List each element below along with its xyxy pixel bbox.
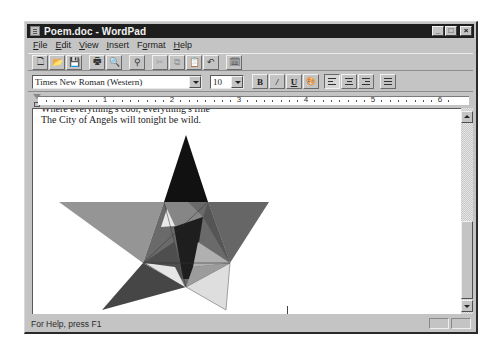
italic-button[interactable]: / xyxy=(269,74,285,89)
ruler-tick xyxy=(189,100,190,102)
menu-format-label: rmat xyxy=(147,40,165,50)
status-text: For Help, press F1 xyxy=(28,319,429,329)
vertical-scrollbar[interactable] xyxy=(461,108,473,314)
bold-button[interactable]: B xyxy=(252,74,268,89)
ruler-tick xyxy=(46,100,47,102)
scroll-thumb[interactable] xyxy=(461,221,473,299)
save-disk-icon: 💾 xyxy=(69,57,80,67)
ruler-tick xyxy=(381,100,382,102)
ruler-number-2: 2 xyxy=(170,95,174,104)
format-toolbar: Times New Roman (Western) 10 B / U 🎨 xyxy=(28,72,473,92)
ruler-tick xyxy=(88,100,89,102)
align-center-icon xyxy=(345,78,353,85)
ruler-tick xyxy=(214,100,215,102)
copy-icon: ⧉ xyxy=(174,57,180,68)
paste-icon: 📋 xyxy=(189,57,200,67)
align-right-icon xyxy=(362,78,370,85)
ruler-tick xyxy=(79,100,80,102)
ruler-tick xyxy=(281,100,282,102)
maximize-button[interactable]: □ xyxy=(445,26,457,36)
ruler-tick xyxy=(256,100,257,102)
print-button[interactable]: 🖶 xyxy=(89,55,105,70)
status-pane-caps xyxy=(429,318,449,329)
paste-button[interactable]: 📋 xyxy=(186,55,202,70)
ruler-tick xyxy=(398,100,399,102)
ruler-tick xyxy=(406,100,407,102)
menu-insert-label: nsert xyxy=(109,40,129,50)
ruler-tick xyxy=(331,100,332,102)
document-area[interactable]: Where everything's cool, everything's fi… xyxy=(32,108,461,314)
scroll-up-arrow-icon[interactable] xyxy=(461,111,473,123)
ruler-tick xyxy=(415,100,416,102)
ruler-tick xyxy=(197,100,198,102)
ruler-tick xyxy=(289,100,290,102)
font-name-value: Times New Roman (Western) xyxy=(35,77,142,87)
menu-edit-label: dit xyxy=(62,40,72,50)
undo-button[interactable]: ↶ xyxy=(203,55,219,70)
menu-help[interactable]: Help xyxy=(169,39,196,53)
status-bar: For Help, press F1 xyxy=(28,316,473,331)
ruler-tick xyxy=(163,100,164,102)
ruler-number-6: 6 xyxy=(438,95,442,104)
ruler-tick xyxy=(63,100,64,102)
open-button[interactable]: 📂 xyxy=(49,55,65,70)
ruler-tick xyxy=(272,100,273,102)
ruler-tick xyxy=(113,100,114,102)
find-button[interactable]: ⚲ xyxy=(129,55,145,70)
undo-icon: ↶ xyxy=(207,57,215,67)
ruler-tick xyxy=(130,100,131,102)
menu-file[interactable]: File xyxy=(29,39,52,53)
close-button[interactable]: × xyxy=(460,26,472,36)
bullet-list-icon xyxy=(384,78,392,85)
menu-edit[interactable]: Edit xyxy=(52,39,76,53)
scroll-down-arrow-icon[interactable] xyxy=(461,300,473,312)
ruler-tick xyxy=(348,100,349,102)
new-document-icon: 🗋 xyxy=(37,54,44,70)
color-button[interactable]: 🎨 xyxy=(303,74,319,89)
menu-format[interactable]: Format xyxy=(133,39,170,53)
minimize-button[interactable]: _ xyxy=(432,26,444,36)
star-drawing[interactable] xyxy=(33,109,461,314)
bold-icon: B xyxy=(257,77,263,87)
align-right-button[interactable] xyxy=(358,74,374,89)
menu-file-label: ile xyxy=(39,40,48,50)
ruler-tick xyxy=(230,100,231,102)
bullets-button[interactable] xyxy=(380,74,396,89)
ruler-tick xyxy=(364,100,365,102)
title-bar[interactable]: Poem.doc - WordPad _ □ × xyxy=(27,24,474,38)
wordpad-window: Poem.doc - WordPad _ □ × File Edit View … xyxy=(24,21,478,334)
wordpad-app-icon[interactable] xyxy=(30,26,40,36)
ruler-tick xyxy=(96,100,97,102)
menu-help-label: elp xyxy=(180,40,192,50)
font-dropdown-arrow-icon[interactable] xyxy=(189,76,201,88)
font-size-dropdown[interactable]: 10 xyxy=(210,75,244,89)
underline-button[interactable]: U xyxy=(286,74,302,89)
ruler-tick xyxy=(339,100,340,102)
ruler-tick xyxy=(54,100,55,102)
text-cursor xyxy=(287,306,288,314)
copy-button[interactable]: ⧉ xyxy=(169,55,185,70)
ruler[interactable]: 1 2 3 4 xyxy=(28,93,473,107)
star-top-point xyxy=(164,135,208,202)
ruler-tick xyxy=(390,100,391,102)
font-name-dropdown[interactable]: Times New Roman (Western) xyxy=(32,75,202,89)
ruler-number-3: 3 xyxy=(237,95,241,104)
menu-view-label: iew xyxy=(85,40,99,50)
ruler-tick xyxy=(264,100,265,102)
insert-datetime-button[interactable]: 🗓 xyxy=(226,55,242,70)
standard-toolbar: 🗋 📂 💾 🖶 🔍 ⚲ ✂ ⧉ 📋 ↶ 🗓 xyxy=(28,53,473,71)
size-dropdown-arrow-icon[interactable] xyxy=(231,76,243,88)
scissors-icon: ✂ xyxy=(156,57,164,67)
new-button[interactable]: 🗋 xyxy=(32,55,48,70)
align-left-button[interactable] xyxy=(324,74,340,89)
save-button[interactable]: 💾 xyxy=(66,55,82,70)
menu-view[interactable]: View xyxy=(75,39,102,53)
print-preview-button[interactable]: 🔍 xyxy=(106,55,122,70)
ruler-tick xyxy=(155,100,156,102)
menu-insert[interactable]: Insert xyxy=(102,39,133,53)
palette-icon: 🎨 xyxy=(306,77,316,86)
cut-button[interactable]: ✂ xyxy=(152,55,168,70)
ruler-number-1: 1 xyxy=(103,95,107,104)
ruler-tick xyxy=(71,100,72,102)
align-center-button[interactable] xyxy=(341,74,357,89)
